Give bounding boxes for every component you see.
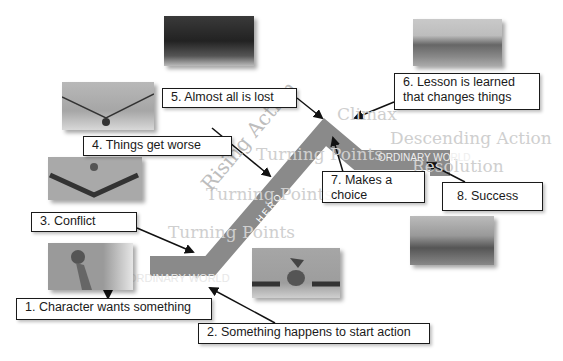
step-1-text: 1. Character wants something [25, 300, 191, 314]
watermark-ordinary-world-start: ORDINARY WORLD [128, 272, 230, 284]
step-2-text: 2. Something happens to start action [207, 325, 411, 339]
step-6-line1: 6. Lesson is learned [403, 75, 531, 90]
step-5-box: 5. Almost all is lost [162, 88, 297, 108]
watermark-ordinary-world-end: ORDINARY WORLD [378, 152, 470, 163]
image-something-happens [252, 248, 340, 298]
step-6-box: 6. Lesson is learned that changes things [394, 73, 540, 110]
image-lesson-learned [413, 19, 502, 66]
step-8-box: 8. Success [442, 182, 543, 211]
step-4-text: 4. Things get worse [92, 138, 201, 152]
step-6-line2: that changes things [403, 90, 531, 105]
watermark-climax: Climax [337, 104, 397, 124]
story-arc-diagram: Turning Points Turning Points Turning Po… [0, 0, 563, 361]
step-7-line2: choice [331, 188, 416, 203]
step-5-text: 5. Almost all is lost [171, 90, 274, 104]
step-8-text: 8. Success [457, 189, 518, 203]
step-2-box: 2. Something happens to start action [198, 323, 430, 344]
image-character [48, 243, 133, 290]
image-things-get-worse [62, 82, 154, 130]
watermark-turning-points-1: Turning Points [256, 144, 383, 164]
watermark-turning-points-3: Turning Points [168, 222, 295, 242]
step-4-box: 4. Things get worse [83, 136, 232, 156]
step-1-box: 1. Character wants something [16, 298, 212, 320]
image-success [410, 216, 494, 265]
image-conflict [48, 157, 142, 200]
step-3-box: 3. Conflict [31, 212, 137, 232]
step-7-line1: 7. Makes a [331, 173, 416, 188]
step-3-text: 3. Conflict [40, 214, 96, 228]
image-almost-all-lost [164, 16, 254, 66]
step-7-box: 7. Makes a choice [322, 171, 425, 203]
watermark-descending-action: Descending Action [390, 128, 552, 148]
